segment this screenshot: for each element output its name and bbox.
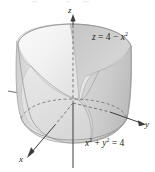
axis-label-z-text: z <box>68 5 72 15</box>
surface-equation-operator: = 4 − <box>96 32 121 42</box>
cylinder-equation-plus: + <box>92 138 102 148</box>
axis-label-x-text: x <box>19 154 23 164</box>
solid-diagram-svg <box>0 0 155 172</box>
axis-label-x: x <box>19 155 23 164</box>
axis-label-y-text: y <box>145 119 149 129</box>
axis-label-y: y <box>145 120 149 129</box>
axis-label-z: z <box>68 6 72 15</box>
surface-equation-label: z = 4 − x2 <box>92 33 128 43</box>
surface-equation-exponent: 2 <box>125 31 128 37</box>
figure-3d-solid: z y x z = 4 − x2 x2 + y2 = 4 <box>0 0 155 172</box>
scan-edge-artifacts <box>32 1 89 2</box>
cylinder-equation-rhs: = 4 <box>109 138 124 148</box>
cylinder-equation-label: x2 + y2 = 4 <box>85 139 124 149</box>
